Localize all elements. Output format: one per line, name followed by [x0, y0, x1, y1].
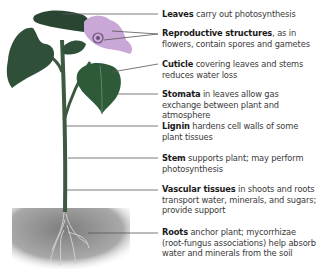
- label-reproductive-structures: Reproductive structures, as in flowers, …: [162, 28, 320, 49]
- label-cuticle: Cuticle covering leaves and stems reduce…: [162, 59, 320, 80]
- label-roots: Roots anchor plant; mycorrhizae (root-fu…: [162, 227, 320, 259]
- term-lignin: Lignin: [162, 121, 190, 131]
- term-cuticle: Cuticle: [162, 59, 193, 69]
- term-vascular-tissues: Vascular tissues: [162, 184, 236, 194]
- term-reproductive-structures: Reproductive structures: [162, 28, 272, 38]
- leaf-heart: [77, 63, 121, 114]
- label-stem: Stem supports plant; may perform photosy…: [162, 153, 320, 174]
- term-roots: Roots: [162, 227, 188, 237]
- label-vascular-tissues: Vascular tissues in shoots and roots tra…: [162, 184, 320, 216]
- label-leaves: Leaves carry out photosynthesis: [162, 9, 320, 20]
- desc-leaves: carry out photosynthesis: [194, 9, 296, 19]
- leaf-mid: [62, 41, 86, 55]
- term-stomata: Stomata: [162, 89, 200, 99]
- label-lignin: Lignin hardens cell walls of some plant …: [162, 121, 320, 142]
- label-stomata: Stomata in leaves allow gas exchange bet…: [162, 89, 320, 121]
- flower: [84, 16, 132, 54]
- term-stem: Stem: [162, 153, 186, 163]
- term-leaves: Leaves: [162, 9, 194, 19]
- leaf-left: [7, 28, 54, 88]
